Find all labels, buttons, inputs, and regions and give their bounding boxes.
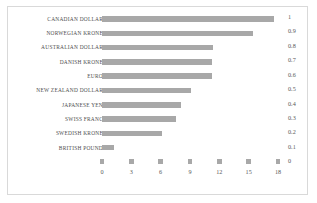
chart-frame: CANADIAN DOLLARNORWEGIAN KRONEAUSTRALIAN… <box>7 6 308 195</box>
secondary-y-tick-label: 0.5 <box>288 85 296 92</box>
secondary-y-tick-label: 0.4 <box>288 100 296 107</box>
secondary-y-tick-label: 0.9 <box>288 27 296 34</box>
secondary-y-tick-label: 1 <box>288 13 291 20</box>
secondary-y-tick-label: 0.6 <box>288 71 296 78</box>
secondary-y-tick-label: 0.7 <box>288 56 296 63</box>
secondary-y-tick-label: 0.3 <box>288 114 296 121</box>
secondary-y-tick-label: 0.1 <box>288 143 296 150</box>
secondary-y-tick-label: 0 <box>288 157 291 164</box>
secondary-y-tick-label: 0.8 <box>288 42 296 49</box>
plot-area: CANADIAN DOLLARNORWEGIAN KRONEAUSTRALIAN… <box>8 7 309 194</box>
secondary-y-axis-tick-labels: 10.90.80.70.60.50.40.30.20.10 <box>8 7 309 194</box>
secondary-y-tick-label: 0.2 <box>288 128 296 135</box>
